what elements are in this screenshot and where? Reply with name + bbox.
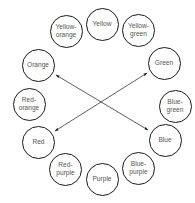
arrow-green-red [55,73,147,131]
node-label: Purple [92,175,111,183]
node-label: Orange [27,61,49,69]
node-red: Red [22,126,55,159]
node-blue-purple: Blue- purple [122,152,155,185]
node-label: Red- purple [56,161,74,176]
node-red-orange: Red- orange [13,88,46,121]
node-blue-green: Blue- green [159,90,192,123]
node-label: Yellow- orange [55,23,76,38]
node-label: Yellow- green [128,22,149,37]
node-yellow: Yellow [86,8,119,41]
node-label: Green [155,59,173,67]
node-label: Blue- purple [129,160,147,175]
node-yellow-green: Yellow- green [122,14,155,47]
color-wheel-diagram: Yellow Yellow- green Green Blue- green B… [0,0,195,203]
node-purple: Purple [86,163,119,196]
node-label: Red- orange [19,96,40,111]
node-label: Blue- green [167,98,184,113]
node-green: Green [148,47,181,80]
node-orange: Orange [22,49,55,82]
node-label: Yellow [93,20,112,28]
node-label: Blue [158,136,171,144]
node-yellow-orange: Yellow- orange [50,15,83,48]
node-red-purple: Red- purple [49,153,82,186]
node-label: Red [32,138,44,146]
node-blue: Blue [149,124,182,157]
arrow-orange-blue [56,75,148,130]
